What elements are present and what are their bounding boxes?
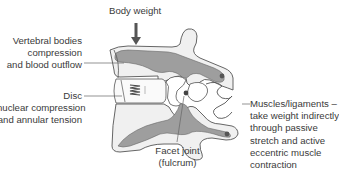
disc-label: Disc nuclear compression and annular ten… [0, 90, 82, 127]
facet-joint-label: Facet joint (fulcrum) [140, 145, 215, 169]
intervertebral-disc [114, 79, 166, 103]
body-weight-label: Body weight [109, 5, 161, 17]
fulcrum-dot-icon [184, 91, 189, 96]
vertebral-bodies-label: Vertebral bodies compression and blood o… [0, 35, 82, 72]
body-weight-arrow-icon [131, 23, 141, 45]
muscles-ligaments-label: Muscles/ligaments – take weight indirect… [250, 98, 339, 171]
